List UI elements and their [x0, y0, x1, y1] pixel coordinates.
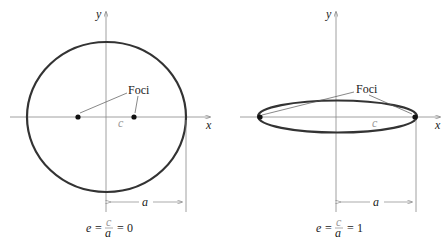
- svg-text:1: 1: [357, 221, 363, 235]
- svg-text:0: 0: [127, 221, 133, 235]
- eccentricity-equation: e = c a = 0: [86, 215, 133, 240]
- x-axis-label: x: [434, 118, 441, 132]
- foci-leader-left: [262, 92, 354, 115]
- circle-diagram: x y Foci c a e = c a = 0: [10, 7, 212, 240]
- svg-text:a: a: [105, 226, 111, 240]
- svg-text:e: e: [86, 221, 92, 235]
- c-label: c: [118, 116, 124, 130]
- focus-right: [412, 114, 417, 119]
- svg-text:a: a: [335, 226, 341, 240]
- focus-left: [257, 114, 262, 119]
- foci-leader-right: [369, 95, 412, 114]
- a-label: a: [142, 195, 148, 209]
- x-axis-label: x: [205, 118, 212, 132]
- svg-text:e: e: [316, 221, 322, 235]
- svg-text:=: =: [325, 221, 332, 235]
- a-label: a: [373, 195, 379, 209]
- foci-label: Foci: [128, 83, 150, 97]
- y-axis-label: y: [325, 7, 332, 21]
- focus-left: [75, 114, 80, 119]
- foci-label: Foci: [356, 82, 378, 96]
- svg-text:=: =: [95, 221, 102, 235]
- flat-ellipse-diagram: x y Foci c a e = c a = 1: [240, 7, 441, 240]
- focus-right: [131, 114, 136, 119]
- svg-text:=: =: [117, 221, 124, 235]
- c-label: c: [372, 116, 378, 130]
- foci-leader-left: [80, 93, 127, 113]
- svg-text:=: =: [347, 221, 354, 235]
- foci-leader-right: [135, 96, 138, 113]
- eccentricity-equation: e = c a = 1: [316, 215, 363, 240]
- y-axis-label: y: [95, 7, 102, 21]
- ellipse-eccentricity-figure: x y Foci c a e = c a = 0 x y: [0, 0, 447, 245]
